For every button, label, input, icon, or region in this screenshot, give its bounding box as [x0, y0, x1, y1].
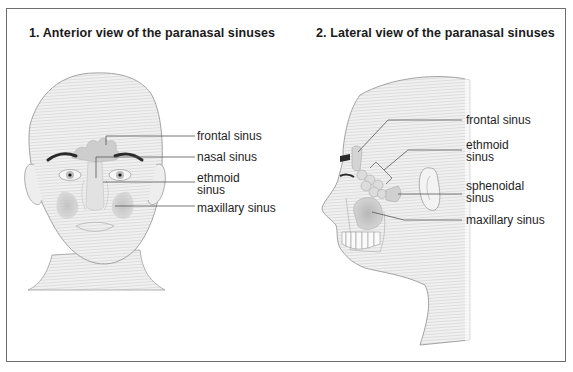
- lateral-label-ethmoid-sinus-line2: sinus: [466, 151, 494, 163]
- lateral-label-frontal-sinus: frontal sinus: [466, 114, 531, 126]
- lateral-label-sphenoidal-sinus-line2: sinus: [466, 192, 494, 204]
- anterior-label-maxillary-sinus: maxillary sinus: [197, 202, 276, 214]
- anterior-head: [25, 73, 166, 290]
- anterior-view-title: 1. Anterior view of the paranasal sinuse…: [29, 26, 275, 40]
- lateral-view-title: 2. Lateral view of the paranasal sinuses: [316, 26, 555, 40]
- lateral-label-maxillary-sinus: maxillary sinus: [466, 214, 545, 226]
- anterior-label-ethmoid-sinus-line2: sinus: [197, 184, 225, 196]
- anterior-label-nasal-sinus: nasal sinus: [197, 151, 257, 163]
- anterior-label-frontal-sinus: frontal sinus: [197, 130, 262, 142]
